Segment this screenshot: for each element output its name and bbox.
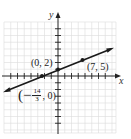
- paren-open: (−: [18, 88, 31, 103]
- x-axis-label: x: [119, 76, 123, 86]
- y-axis-label: y: [49, 10, 53, 20]
- line-arrow-right-icon: [106, 48, 114, 53]
- fraction: 14 3: [32, 88, 41, 103]
- paren-close: , 0): [42, 91, 55, 101]
- point-label-0-2: (0, 2): [31, 58, 53, 68]
- point-label-x-intercept: (− 14 3 , 0): [18, 88, 56, 103]
- graph-canvas: [0, 0, 131, 139]
- fraction-denominator: 3: [35, 96, 39, 103]
- point-label-7-5: (7, 5): [87, 62, 109, 72]
- point-0-2: [56, 68, 60, 72]
- point-x-intercept: [40, 74, 44, 78]
- point-7-5: [81, 58, 85, 62]
- y-axis-arrow-icon: [56, 12, 61, 18]
